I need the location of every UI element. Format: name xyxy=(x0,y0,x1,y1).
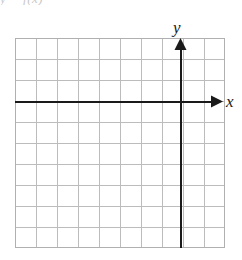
coordinate-plane-svg xyxy=(0,0,242,260)
y-axis-label: y xyxy=(173,19,181,36)
x-axis-label: x xyxy=(226,93,234,110)
coordinate-plane-figure: y x xyxy=(0,0,242,260)
